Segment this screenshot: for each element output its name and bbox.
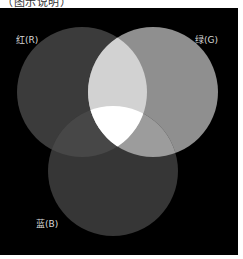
- red-label: 红(R): [16, 35, 38, 45]
- green-label: 绿(G): [195, 35, 218, 45]
- venn-svg: [0, 8, 238, 255]
- blue-label: 蓝(B): [36, 219, 58, 229]
- cropped-caption-strip: （图示说明）: [0, 0, 243, 8]
- caption-fragment: （图示说明）: [2, 0, 71, 8]
- venn-diagram: 红(R) 绿(G) 蓝(B): [0, 8, 238, 255]
